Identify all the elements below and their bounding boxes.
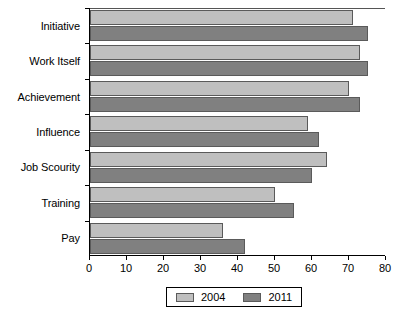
value-tick-label: 60 [296,262,326,275]
bar-chart: InitiativeWork ItselfAchievementInfluenc… [0,0,410,320]
category-tick [85,185,89,186]
bar-2004-pay [90,223,223,238]
bar-2011-achievement [90,97,360,112]
value-tick-label: 30 [185,262,215,275]
category-label: Achievement [0,79,86,114]
value-tick-label: 10 [111,262,141,275]
value-tick [237,256,238,260]
bar-2004-work-itself [90,45,360,60]
value-tick [311,256,312,260]
category-label: Work Itself [0,43,86,78]
category-label: Initiative [0,8,86,43]
category-label: Job Scourity [0,150,86,185]
bar-2004-training [90,187,275,202]
plot-area: 01020304050607080 [89,8,385,256]
bar-group [90,185,386,220]
bar-2011-training [90,203,294,218]
bar-2011-work-itself [90,61,368,76]
bar-2011-initiative [90,26,368,41]
bar-group [90,221,386,256]
bar-group [90,114,386,149]
value-tick [274,256,275,260]
legend-entry-2004: 2004 [176,291,225,303]
category-tick [85,150,89,151]
bar-2011-influence [90,132,319,147]
bar-group [90,8,386,43]
bar-2011-job-scourity [90,168,312,183]
category-tick [85,43,89,44]
value-tick-label: 0 [74,262,104,275]
value-tick [126,256,127,260]
bar-group [90,150,386,185]
value-tick-label: 50 [259,262,289,275]
bar-2004-influence [90,116,308,131]
legend-entry-2011: 2011 [243,291,292,303]
value-tick [348,256,349,260]
bar-2004-job-scourity [90,152,327,167]
chart-legend: 20042011 [166,287,302,307]
category-label: Pay [0,221,86,256]
value-tick [385,256,386,260]
bar-group [90,43,386,78]
category-label: Influence [0,114,86,149]
value-tick [200,256,201,260]
value-tick-label: 40 [222,262,252,275]
legend-swatch-icon [176,293,194,302]
value-tick [163,256,164,260]
legend-swatch-icon [243,293,261,302]
value-tick-label: 80 [370,262,400,275]
category-tick [85,8,89,9]
category-axis: InitiativeWork ItselfAchievementInfluenc… [0,8,86,256]
category-label: Training [0,185,86,220]
category-tick [85,79,89,80]
bar-group [90,79,386,114]
bar-2004-achievement [90,81,349,96]
bar-2011-pay [90,239,245,254]
category-tick [85,221,89,222]
bar-2004-initiative [90,10,353,25]
value-tick-label: 70 [333,262,363,275]
value-tick-label: 20 [148,262,178,275]
legend-label: 2004 [201,291,225,303]
value-tick [89,256,90,260]
category-tick [85,114,89,115]
legend-label: 2011 [268,291,292,303]
